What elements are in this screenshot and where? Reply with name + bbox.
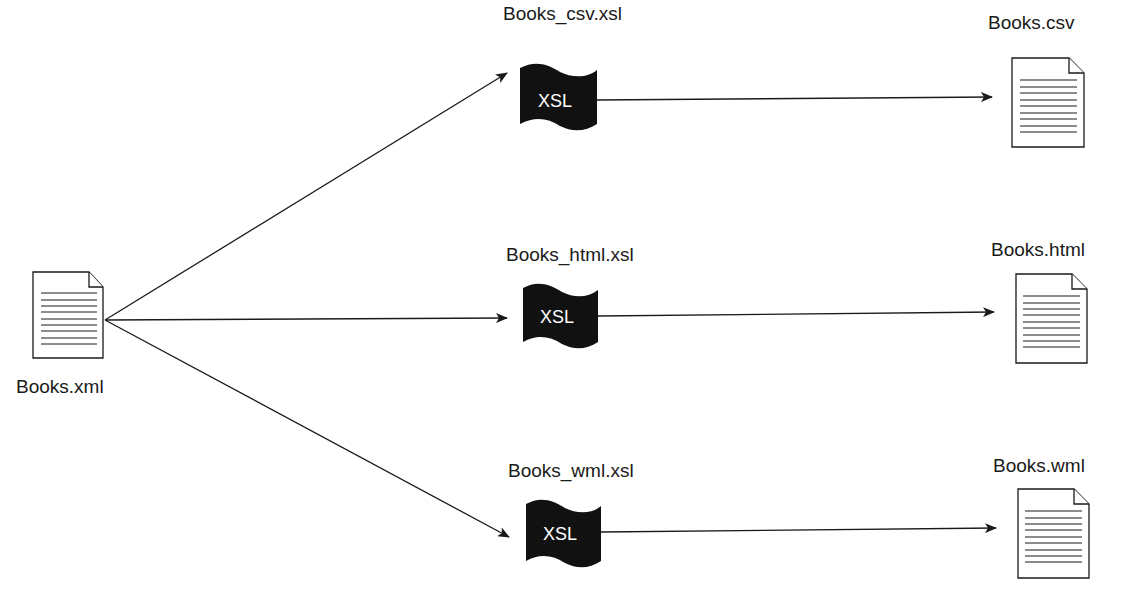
- edge-html-xsl-to-output: [598, 312, 994, 316]
- edge-xml-to-csv-xsl: [105, 73, 507, 320]
- output-label-csv: Books.csv: [988, 12, 1075, 33]
- transform-wml: Books_wml.xsl XSL Books.wml: [508, 455, 1089, 578]
- xsl-badge: XSL: [540, 307, 574, 327]
- stylesheet-label-wml: Books_wml.xsl: [508, 460, 634, 482]
- output-label-wml: Books.wml: [993, 455, 1085, 476]
- edge-xml-to-html-xsl: [105, 318, 507, 320]
- transform-csv: Books_csv.xsl XSL Books.csv: [503, 3, 1084, 147]
- edge-wml-xsl-to-output: [601, 528, 996, 532]
- source-label: Books.xml: [16, 376, 104, 397]
- xsl-badge: XSL: [538, 91, 572, 111]
- stylesheet-label-html: Books_html.xsl: [506, 244, 634, 266]
- xsl-badge: XSL: [543, 524, 577, 544]
- diagram-canvas: Books.xml Books_csv.xsl XSL Books.csv Bo…: [0, 0, 1126, 599]
- stylesheet-label-csv: Books_csv.xsl: [503, 3, 622, 25]
- transform-html: Books_html.xsl XSL Books.html: [506, 239, 1087, 363]
- source-document: Books.xml: [16, 272, 104, 397]
- edge-csv-xsl-to-output: [597, 97, 992, 100]
- edge-xml-to-wml-xsl: [105, 320, 509, 537]
- output-label-html: Books.html: [991, 239, 1085, 260]
